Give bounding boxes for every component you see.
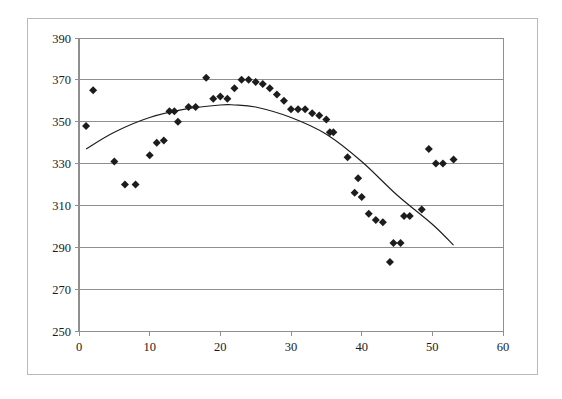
x-tick-label-20: 20 [214, 340, 227, 354]
y-tick-label-350: 350 [52, 115, 71, 129]
data-point [170, 107, 178, 115]
data-point [89, 86, 97, 94]
data-point [110, 157, 118, 165]
data-point [146, 151, 154, 159]
data-point [432, 160, 440, 168]
x-tick-label-0: 0 [76, 340, 82, 354]
data-point [386, 258, 394, 266]
y-tick-label-250: 250 [52, 325, 71, 339]
chart-figure-frame: 250270290310330350370390 0102030405060 [27, 18, 538, 375]
x-tick-label-60: 60 [497, 340, 510, 354]
data-points-group [82, 74, 457, 266]
y-tick-label-390: 390 [52, 32, 71, 46]
data-point [301, 105, 309, 113]
scatter-chart: 250270290310330350370390 0102030405060 [28, 19, 537, 374]
gridlines-group [79, 38, 503, 331]
data-point [389, 239, 397, 247]
data-point [280, 97, 288, 105]
data-point [315, 111, 323, 119]
data-point [192, 103, 200, 111]
data-point [266, 84, 274, 92]
data-point [238, 76, 246, 84]
data-point [354, 174, 362, 182]
data-point [223, 95, 231, 103]
data-point [372, 216, 380, 224]
data-point [344, 153, 352, 161]
data-point [245, 76, 253, 84]
data-point [308, 109, 316, 117]
data-point [209, 95, 217, 103]
y-tick-label-330: 330 [52, 157, 71, 171]
data-point [294, 105, 302, 113]
data-point [450, 155, 458, 163]
data-point [406, 212, 414, 220]
data-point [252, 78, 260, 86]
y-tick-label-370: 370 [52, 73, 71, 87]
x-tick-label-40: 40 [355, 340, 368, 354]
data-point [160, 137, 168, 145]
x-axis-tick-labels: 0102030405060 [76, 340, 509, 354]
data-point [365, 210, 373, 218]
data-point [287, 105, 295, 113]
x-tick-label-10: 10 [143, 340, 156, 354]
data-point [273, 91, 281, 99]
data-point [379, 218, 387, 226]
data-point [216, 93, 224, 101]
trendline [86, 105, 453, 246]
data-point [358, 193, 366, 201]
data-point [185, 103, 193, 111]
y-axis-tick-labels: 250270290310330350370390 [52, 32, 71, 339]
data-point [174, 118, 182, 126]
tick-marks-group [75, 38, 503, 336]
data-point [132, 181, 140, 189]
data-point [230, 84, 238, 92]
data-point [351, 189, 359, 197]
data-point [322, 116, 330, 124]
y-tick-label-270: 270 [52, 283, 71, 297]
data-point [425, 145, 433, 153]
data-point [153, 139, 161, 147]
x-tick-label-30: 30 [285, 340, 298, 354]
y-tick-label-290: 290 [52, 241, 71, 255]
x-tick-label-50: 50 [426, 340, 439, 354]
data-point [397, 239, 405, 247]
y-tick-label-310: 310 [52, 199, 71, 213]
data-point [121, 181, 129, 189]
data-point [202, 74, 210, 82]
data-point [439, 160, 447, 168]
data-point [82, 122, 90, 130]
data-point [259, 80, 267, 88]
